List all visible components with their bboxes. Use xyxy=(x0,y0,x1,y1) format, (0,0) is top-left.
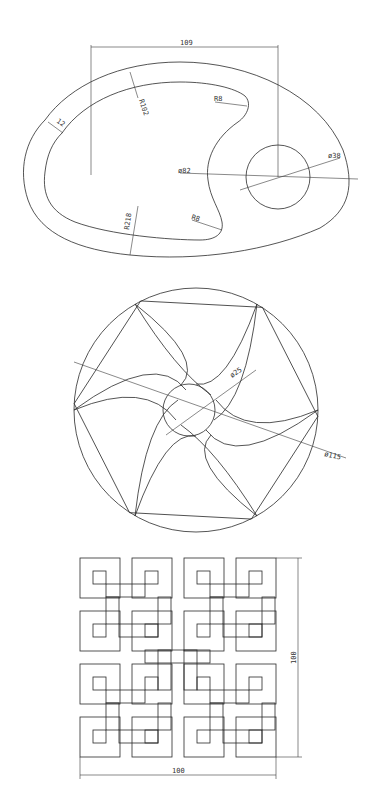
r8-top-label: R8 xyxy=(214,95,222,103)
cad-drawing-sheet: 109 R102 12 R8 ø82 ø38 R218 R8 xyxy=(0,0,372,812)
drawing-3-knot: 100 100 xyxy=(80,558,302,779)
dim-line-phi25 xyxy=(166,370,256,435)
r102-label: R102 xyxy=(137,98,150,117)
dim-109-label: 109 xyxy=(180,39,193,47)
spiral-arcs xyxy=(74,304,318,516)
dim-horizontal-label: 100 xyxy=(172,767,185,775)
dim-vertical-label: 100 xyxy=(290,651,298,664)
r218-label: R218 xyxy=(123,212,133,230)
outer-contour xyxy=(23,62,349,257)
phi115-label: ø115 xyxy=(324,450,342,461)
phi82-label: ø82 xyxy=(178,167,191,175)
width-12-label: 12 xyxy=(55,117,67,128)
r8-bottom-label: R8 xyxy=(190,213,200,223)
dim-line-phi115 xyxy=(74,362,346,458)
knot-squares xyxy=(80,558,276,757)
hexagon xyxy=(69,298,324,522)
drawing-2-pinwheel: ø25 ø115 xyxy=(69,288,346,532)
phi38-label: ø38 xyxy=(328,152,341,160)
phi25-label: ø25 xyxy=(229,366,244,380)
drawing-1-palette: 109 R102 12 R8 ø82 ø38 R218 R8 xyxy=(23,39,358,257)
outer-circle-phi115 xyxy=(74,288,318,532)
